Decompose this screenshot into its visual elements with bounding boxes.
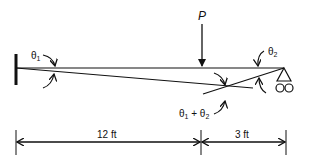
beam-diagram: P θ1 θ2 θ1 + θ2 12 ft 3 ft xyxy=(0,0,310,164)
dimension-label-12ft: 12 ft xyxy=(97,129,117,140)
tangent-line-right xyxy=(203,68,284,94)
angle-arrows-theta2 xyxy=(258,51,266,93)
dimension-label-3ft: 3 ft xyxy=(235,129,249,140)
angle-arrows-sum xyxy=(214,73,225,114)
theta2-label: θ2 xyxy=(268,46,278,58)
roller-support xyxy=(276,68,293,92)
angle-sum-label: θ1 + θ2 xyxy=(179,108,209,120)
load-label: P xyxy=(198,9,206,23)
tangent-line-left xyxy=(16,68,253,88)
theta1-label: θ1 xyxy=(31,50,41,62)
